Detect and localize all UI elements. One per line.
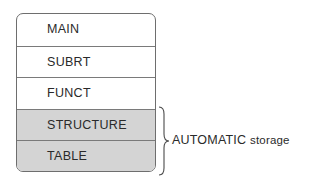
storage-stack: MAIN SUBRT FUNCT STRUCTURE TABLE (16, 13, 156, 172)
automatic-text: AUTOMATIC (172, 133, 246, 147)
segment-funct: FUNCT (17, 77, 155, 109)
automatic-storage-label: AUTOMATIC storage (172, 133, 290, 147)
segment-subrt: SUBRT (17, 46, 155, 78)
curly-brace-icon (158, 106, 170, 176)
segment-main: MAIN (17, 14, 155, 46)
segment-table: TABLE (17, 140, 155, 172)
segment-structure: STRUCTURE (17, 109, 155, 141)
storage-text: storage (250, 134, 290, 146)
